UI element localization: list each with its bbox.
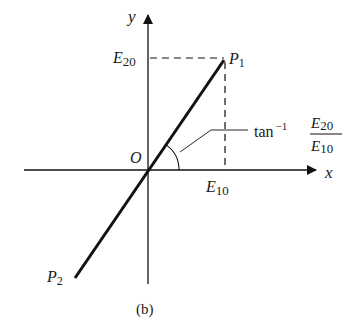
- p2-label: P2: [46, 268, 63, 288]
- angle-leader-line: [180, 130, 248, 152]
- origin-label: O: [130, 149, 142, 166]
- figure-caption: (b): [136, 301, 154, 318]
- e20-label: E20: [112, 49, 136, 69]
- phasor-diagram: y x O E20 P1 E10 P2 tan−1 E20 E10 (b): [0, 0, 362, 329]
- p1-label: P1: [228, 50, 245, 70]
- angle-arc: [166, 144, 180, 170]
- fraction-denominator: E10: [310, 138, 333, 156]
- e10-label: E10: [205, 178, 229, 198]
- tan-label: tan−1: [254, 120, 287, 140]
- y-axis-label: y: [126, 7, 136, 26]
- fraction-numerator: E20: [310, 115, 333, 133]
- polarization-line: [75, 60, 224, 278]
- x-axis-label: x: [324, 163, 333, 182]
